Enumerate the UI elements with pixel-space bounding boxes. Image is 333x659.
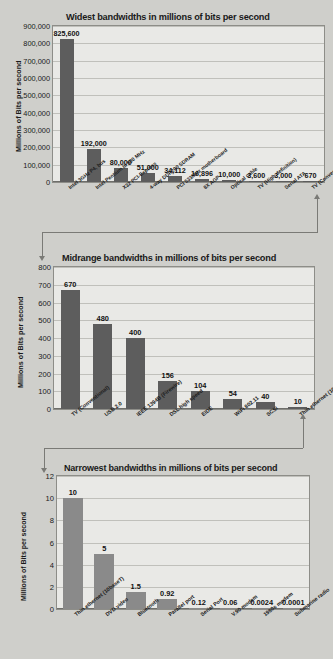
bar-value-label: 192,000 (81, 139, 107, 148)
gridline (54, 303, 314, 304)
y-axis-tick: 0 (47, 405, 51, 414)
y-axis-tick: 600 (38, 298, 51, 307)
x-axis-tick-label: TV (Conventional) (70, 413, 74, 418)
chart3-plot-area: 0246810121051.50.920.120.060.00240.0001 (56, 475, 310, 610)
chart2-title: Midrange bandwidths in millions of bits … (62, 253, 276, 263)
y-axis-tick: 0 (50, 605, 54, 614)
x-axis-tick-label: Bluetooth (136, 613, 140, 618)
bar-value-label: 480 (97, 314, 109, 323)
x-axis-tick-label: DVD video (104, 613, 108, 618)
y-axis-tick: 500 (38, 316, 51, 325)
chart1-y-axis-label: Millions of Bits per second (14, 61, 23, 152)
x-axis-tick-label: 8X AGP (202, 186, 206, 191)
bar-value-label: 10 (69, 488, 77, 497)
y-axis-tick: 8 (50, 516, 54, 525)
x-axis-tick-label: DSL high speed (168, 413, 172, 418)
y-axis-tick: 900,000 (23, 22, 50, 31)
x-axis-tick-label: Thin ethernet (10baseT) (73, 613, 77, 618)
bar (126, 338, 145, 409)
x-axis-tick-label: Parallel port (167, 613, 171, 618)
x-axis-tick-label: Serial ATA (283, 186, 287, 191)
bar-value-label: 40 (261, 392, 269, 401)
bar-value-label: 156 (162, 371, 174, 380)
x-axis-tick-label: IEEE 1394B (Firewire) (135, 413, 139, 418)
x-axis-tick-label: X32 PCI-Express (121, 186, 125, 191)
y-axis-tick: 300 (38, 351, 51, 360)
y-axis-tick: 100,000 (23, 160, 50, 169)
gridline (57, 543, 309, 544)
chart-widest-bandwidths: Widest bandwidths in millions of bits pe… (0, 0, 333, 240)
bar-value-label: 670 (64, 280, 76, 289)
y-axis-tick: 700 (38, 280, 51, 289)
gridline (57, 476, 309, 477)
gridline (57, 498, 309, 499)
y-axis-tick: 300,000 (23, 126, 50, 135)
gridline (53, 26, 324, 27)
x-axis-tick-label: USB 2.0 (103, 413, 107, 418)
chart2-plot-area: 0100200300400500600700800670480400156104… (53, 266, 315, 410)
y-axis-tick: 500,000 (23, 91, 50, 100)
bar-value-label: 670 (304, 171, 316, 180)
x-axis-tick-label: EIDE (200, 413, 204, 418)
gridline (57, 520, 309, 521)
bar-value-label: 400 (129, 328, 141, 337)
gridline (53, 43, 324, 44)
bar-value-label: 54 (229, 389, 237, 398)
gridline (53, 61, 324, 62)
chart2-y-axis-label: Millions of Bits per second (16, 297, 25, 388)
x-axis-tick-label: WiFi 802.11 (233, 413, 237, 418)
y-axis-tick: 400,000 (23, 108, 50, 117)
x-axis-tick-label: V.90 modem (230, 613, 234, 618)
bar (63, 498, 83, 609)
chart3-y-axis-label: Millions of Bits per second (20, 512, 27, 601)
x-axis-tick-label: Intel Pentium III 500 MHz (94, 186, 98, 191)
y-axis-tick: 10 (46, 494, 54, 503)
bar-value-label: 825,600 (54, 29, 80, 38)
y-axis-tick: 12 (46, 472, 54, 481)
y-axis-tick: 200 (38, 369, 51, 378)
chart1-title: Widest bandwidths in millions of bits pe… (66, 12, 270, 22)
x-axis-tick-label: SCSI (265, 413, 269, 418)
y-axis-tick: 800 (38, 263, 51, 272)
y-axis-tick: 6 (50, 538, 54, 547)
x-axis-tick-label: Intel 3GHz P4, bus (67, 186, 71, 191)
bandwidth-chart-page: Widest bandwidths in millions of bits pe… (0, 0, 333, 659)
x-axis-tick-label: Optical cable (229, 186, 233, 191)
y-axis-tick: 600,000 (23, 74, 50, 83)
bar (60, 39, 74, 182)
gridline (53, 130, 324, 131)
bar (61, 290, 80, 409)
x-axis-tick-label: TV (High definition) (256, 186, 260, 191)
x-axis-tick-label: Submarine radio (293, 613, 297, 618)
y-axis-tick: 0 (46, 178, 50, 187)
x-axis-tick-label: TV (Conventional) (311, 186, 315, 191)
gridline (54, 320, 314, 321)
chart-midrange-bandwidths: Midrange bandwidths in millions of bits … (0, 240, 333, 455)
y-axis-tick: 4 (50, 560, 54, 569)
bar-value-label: 1.5 (131, 582, 141, 591)
gridline (53, 78, 324, 79)
bar-value-label: 5 (102, 544, 106, 553)
gridline (54, 285, 314, 286)
y-axis-tick: 400 (38, 334, 51, 343)
x-axis-tick-label: 4-way DDR200 SDRAM (148, 186, 152, 191)
y-axis-tick: 700,000 (23, 56, 50, 65)
x-axis-tick-label: PCI 533MHz motherboard (175, 186, 179, 191)
y-axis-tick: 100 (38, 387, 51, 396)
y-axis-tick: 800,000 (23, 39, 50, 48)
gridline (53, 113, 324, 114)
chart3-title: Narrowest bandwidths in millions of bits… (64, 463, 277, 473)
y-axis-tick: 200,000 (23, 143, 50, 152)
chart-narrowest-bandwidths: Narrowest bandwidths in millions of bits… (0, 455, 333, 659)
x-axis-tick-label: 1980s modem (262, 613, 266, 618)
gridline (53, 95, 324, 96)
gridline (54, 267, 314, 268)
bar-value-label: 0.92 (160, 589, 174, 598)
bar-value-label: 0.06 (223, 598, 237, 607)
x-axis-tick-label: Serial Port (199, 613, 203, 618)
bar-value-label: 10 (294, 397, 302, 406)
y-axis-tick: 2 (50, 582, 54, 591)
